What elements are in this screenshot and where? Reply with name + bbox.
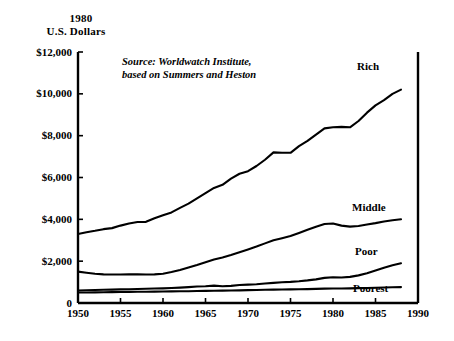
y-axis-tick-label-text: $8,000	[18, 130, 72, 141]
y-axis-title-line1: 1980	[36, 12, 126, 25]
y-axis-tick-label-text: $10,000	[18, 88, 72, 99]
y-axis-tick-label: $8,000	[14, 130, 72, 141]
x-axis-tick-label: 1980	[311, 308, 355, 319]
chart-figure: 1980 U.S. Dollars Source: Worldwatch Ins…	[0, 0, 454, 341]
source-annotation: Source: Worldwatch Institute, based on S…	[122, 56, 256, 81]
x-axis-tick-label: 1985	[354, 308, 398, 319]
y-axis-tick-label: $6,000	[14, 172, 72, 183]
x-axis-tick-label: 1975	[269, 308, 313, 319]
y-axis-title-line2: U.S. Dollars	[26, 25, 126, 38]
x-axis-tick-label: 1950	[56, 308, 100, 319]
y-axis-tick-label: $4,000	[14, 214, 72, 225]
series-label-poorest: Poorest	[353, 283, 388, 294]
x-axis-tick-label: 1965	[184, 308, 228, 319]
series-line-middle	[78, 219, 401, 274]
y-axis-tick-label: $10,000	[14, 88, 72, 99]
y-axis-tick-label-text: $12,000	[18, 47, 72, 58]
y-axis-tick-label-text: 0	[18, 298, 72, 309]
y-axis-tick-label: 0	[14, 298, 72, 309]
y-axis-tick-label-text: $6,000	[18, 172, 72, 183]
x-axis-tick-label: 1960	[141, 308, 185, 319]
y-axis-tick-label-text: $4,000	[18, 214, 72, 225]
series-lines	[78, 90, 401, 293]
axis-lines	[78, 52, 418, 303]
axis-tick-marks	[78, 52, 376, 303]
y-axis-tick-label: $2,000	[14, 256, 72, 267]
y-axis-tick-label-text: $2,000	[18, 256, 72, 267]
x-axis-tick-label: 1955	[99, 308, 143, 319]
y-axis-tick-label: $12,000	[14, 47, 72, 58]
series-label-rich: Rich	[357, 61, 379, 72]
x-axis-tick-label: 1970	[226, 308, 270, 319]
series-label-poor: Poor	[355, 246, 378, 257]
x-axis-tick-label: 1990	[396, 308, 440, 319]
series-label-middle: Middle	[352, 202, 386, 213]
